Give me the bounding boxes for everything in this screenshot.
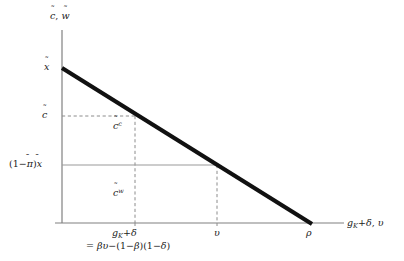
y-axis-label: ˜c, ˜w [50,11,70,21]
annotation-capitalist-consumption: ˜cc [113,121,122,131]
annotation-gk-definition: = βυ−(1−β)(1−δ) [86,241,170,251]
y-tick-label-x-intercept: ˜x [44,62,49,72]
x-axis-label: gK+δ, υ [347,218,383,229]
plot-canvas [0,0,404,261]
y-tick-label-c-bar: ˜c [42,110,47,120]
annotation-worker-consumption: ˜cw [113,188,124,198]
x-tick-label-v: υ [214,228,220,238]
x-tick-label-gk-plus-delta: gK+δ [112,228,137,239]
y-tick-label-one-minus-pi-x: (1−̄π)̄x [9,159,42,169]
consumption-growth-schedule [62,68,312,224]
growth-distribution-figure: ˜c, ˜w ˜x ˜c (1−̄π)̄x ˜cc ˜cw gK+δ = βυ−… [0,0,404,261]
x-tick-label-rho: ρ [306,228,312,238]
